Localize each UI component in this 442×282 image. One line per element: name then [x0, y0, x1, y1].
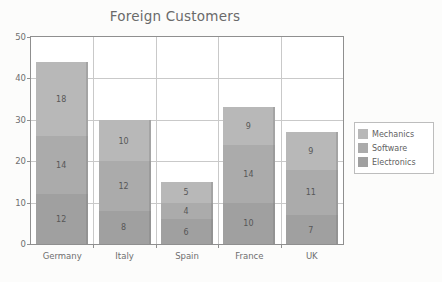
x-gridline [281, 37, 282, 244]
bar-segment[interactable]: 14 [223, 145, 275, 203]
bar-segment-value-label: 4 [161, 206, 211, 215]
bar-segment[interactable]: 14 [36, 136, 88, 194]
bar-segment-value-label: 8 [99, 223, 149, 232]
chart-root: Foreign Customers 01020304050181412Germa… [0, 0, 442, 282]
bar-segment[interactable]: 9 [223, 107, 275, 144]
y-axis-tick-mark [27, 120, 31, 121]
bar-segment-value-label: 12 [99, 182, 149, 191]
bar-stack[interactable]: 546 [161, 182, 213, 244]
bar-segment[interactable]: 4 [161, 203, 213, 220]
bar-segment-value-label: 14 [36, 161, 86, 170]
legend-item[interactable]: Mechanics [358, 127, 429, 141]
x-axis-category-label: UK [306, 251, 318, 261]
x-gridline [93, 37, 94, 244]
bar-segment[interactable]: 10 [223, 203, 275, 244]
bar-segment-value-label: 9 [223, 122, 273, 131]
legend-swatch-icon [358, 143, 368, 153]
bar-segment-value-label: 9 [286, 146, 336, 155]
bar-segment[interactable]: 11 [286, 170, 338, 216]
bar-segment-value-label: 11 [286, 188, 336, 197]
x-gridline [218, 37, 219, 244]
x-axis-category-label: Italy [115, 251, 133, 261]
bar-segment-value-label: 12 [36, 215, 86, 224]
plot-area: 01020304050181412Germany10128Italy546Spa… [30, 36, 344, 245]
x-gridline [156, 37, 157, 244]
bar-segment[interactable]: 12 [99, 161, 151, 211]
legend-swatch-icon [358, 129, 368, 139]
y-axis-tick-label: 0 [21, 239, 26, 249]
y-axis-tick-mark [27, 161, 31, 162]
bar-segment-value-label: 14 [223, 169, 273, 178]
bar-stack[interactable]: 10128 [99, 120, 151, 244]
y-axis-tick-label: 50 [15, 32, 26, 42]
y-axis-tick-label: 10 [15, 198, 26, 208]
bar-segment[interactable]: 18 [36, 62, 88, 137]
legend-item[interactable]: Software [358, 141, 429, 155]
bar-segment[interactable]: 9 [286, 132, 338, 169]
legend-item-label: Electronics [372, 158, 416, 167]
legend-item-label: Mechanics [372, 130, 414, 139]
x-axis-tick-mark [281, 244, 282, 248]
legend-swatch-icon [358, 157, 368, 167]
bar-segment-value-label: 7 [286, 225, 336, 234]
bar-segment-value-label: 6 [161, 227, 211, 236]
bar-stack[interactable]: 181412 [36, 62, 88, 244]
legend-item-label: Software [372, 144, 407, 153]
bar-segment-value-label: 18 [36, 95, 86, 104]
y-axis-tick-mark [27, 37, 31, 38]
x-axis-category-label: France [235, 251, 263, 261]
y-axis-tick-mark [27, 203, 31, 204]
bar-stack[interactable]: 91410 [223, 107, 275, 244]
bar-segment[interactable]: 6 [161, 219, 213, 244]
bar-segment-value-label: 5 [161, 188, 211, 197]
bar-segment[interactable]: 7 [286, 215, 338, 244]
y-axis-tick-mark [27, 244, 31, 245]
y-axis-tick-label: 30 [15, 115, 26, 125]
bar-segment[interactable]: 12 [36, 194, 88, 244]
bar-segment-value-label: 10 [99, 136, 149, 145]
bar-stack[interactable]: 9117 [286, 132, 338, 244]
y-axis-tick-mark [27, 78, 31, 79]
bar-segment[interactable]: 10 [99, 120, 151, 161]
x-axis-category-label: Germany [43, 251, 82, 261]
chart-legend: MechanicsSoftwareElectronics [354, 122, 434, 174]
x-axis-tick-mark [218, 244, 219, 248]
y-axis-tick-label: 20 [15, 156, 26, 166]
chart-title: Foreign Customers [0, 8, 350, 24]
y-axis-tick-label: 40 [15, 73, 26, 83]
x-axis-category-label: Spain [175, 251, 199, 261]
legend-item[interactable]: Electronics [358, 155, 429, 169]
bar-segment[interactable]: 5 [161, 182, 213, 203]
bar-segment-value-label: 10 [223, 219, 273, 228]
x-axis-tick-mark [93, 244, 94, 248]
x-axis-tick-mark [156, 244, 157, 248]
bar-segment[interactable]: 8 [99, 211, 151, 244]
